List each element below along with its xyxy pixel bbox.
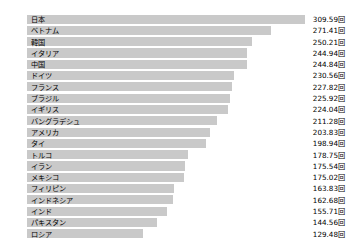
chart-bar [27, 26, 271, 35]
chart-row: フィリピン163.83回 [0, 183, 349, 194]
chart-row-label: ドイツ [31, 70, 52, 81]
chart-row-value: 227.82回 [313, 82, 345, 93]
chart-row-value: 230.56回 [313, 70, 345, 81]
chart-row: トルコ178.75回 [0, 150, 349, 161]
chart-row-value: 244.84回 [313, 59, 345, 70]
chart-row: ブラジル225.92回 [0, 93, 349, 104]
chart-row: イラン175.54回 [0, 161, 349, 172]
chart-row-label: フィリピン [31, 183, 66, 194]
chart-row: ドイツ230.56回 [0, 70, 349, 81]
chart-row: パキスタン144.56回 [0, 217, 349, 228]
chart-bar [27, 37, 252, 46]
chart-bar [27, 71, 234, 80]
chart-row-label: トルコ [31, 150, 52, 161]
chart-row-label: パキスタン [31, 217, 66, 228]
chart-row-label: 中国 [31, 59, 45, 70]
chart-row-value: 155.71回 [313, 206, 345, 217]
chart-row-label: ブラジル [31, 93, 59, 104]
chart-row-label: イラン [31, 161, 52, 172]
chart-row-label: インド [31, 206, 52, 217]
chart-bar [27, 48, 247, 57]
chart-row-value: 144.56回 [313, 217, 345, 228]
chart-row-label: イギリス [31, 104, 59, 115]
chart-bar [27, 139, 206, 148]
chart-row: ベトナム271.41回 [0, 25, 349, 36]
chart-row: インドネシア162.68回 [0, 195, 349, 206]
horizontal-bar-chart: 日本309.59回ベトナム271.41回韓国250.21回イタリア244.94回… [0, 0, 349, 252]
chart-row: 日本309.59回 [0, 14, 349, 25]
chart-row-label: インドネシア [31, 195, 73, 206]
chart-row-label: 韓国 [31, 37, 45, 48]
chart-row: フランス227.82回 [0, 82, 349, 93]
chart-row-value: 175.02回 [313, 172, 345, 183]
chart-row-value: 250.21回 [313, 37, 345, 48]
chart-row-label: 日本 [31, 14, 45, 25]
chart-row-value: 129.48回 [313, 229, 345, 240]
chart-row: 中国244.84回 [0, 59, 349, 70]
chart-row-label: アメリカ [31, 127, 59, 138]
chart-rows: 日本309.59回ベトナム271.41回韓国250.21回イタリア244.94回… [0, 14, 349, 240]
chart-row-value: 178.75回 [313, 150, 345, 161]
chart-row-value: 271.41回 [313, 25, 345, 36]
chart-row-label: ベトナム [31, 25, 59, 36]
chart-row-value: 224.04回 [313, 104, 345, 115]
chart-row-label: ロシア [31, 229, 52, 240]
chart-row-label: メキシコ [31, 172, 59, 183]
chart-row-value: 198.94回 [313, 138, 345, 149]
chart-row-value: 225.92回 [313, 93, 345, 104]
chart-bar [27, 15, 305, 24]
chart-bar [27, 60, 247, 69]
chart-row-value: 162.68回 [313, 195, 345, 206]
chart-row-value: 211.28回 [313, 116, 345, 127]
chart-row: バングラデシュ211.28回 [0, 116, 349, 127]
chart-row-value: 175.54回 [313, 161, 345, 172]
chart-row: タイ198.94回 [0, 138, 349, 149]
chart-row-label: フランス [31, 82, 59, 93]
chart-row-value: 203.83回 [313, 127, 345, 138]
chart-row: インド155.71回 [0, 206, 349, 217]
chart-row-value: 244.94回 [313, 48, 345, 59]
chart-row-label: イタリア [31, 48, 59, 59]
chart-row: アメリカ203.83回 [0, 127, 349, 138]
chart-row: イタリア244.94回 [0, 48, 349, 59]
chart-row-label: バングラデシュ [31, 116, 80, 127]
chart-row: 韓国250.21回 [0, 37, 349, 48]
chart-row: ロシア129.48回 [0, 229, 349, 240]
chart-row: メキシコ175.02回 [0, 172, 349, 183]
chart-row-label: タイ [31, 138, 45, 149]
chart-title [0, 0, 349, 2]
chart-row: イギリス224.04回 [0, 104, 349, 115]
chart-row-value: 163.83回 [313, 183, 345, 194]
chart-row-value: 309.59回 [313, 14, 345, 25]
